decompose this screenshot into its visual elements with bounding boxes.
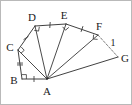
spoke-A-D — [35, 26, 47, 79]
edge-B-C — [18, 50, 22, 79]
edge-labels-group: 1 — [111, 37, 116, 48]
edge-label-FG: 1 — [111, 37, 116, 48]
edge-A-G — [47, 57, 118, 79]
spokes-group — [18, 24, 98, 79]
vertex-label-B: B — [10, 74, 17, 86]
edge-D-E — [35, 24, 66, 26]
right-angle-marks-group — [18, 24, 98, 79]
vertex-label-A: A — [43, 85, 51, 97]
vertex-label-G: G — [121, 52, 129, 64]
vertex-labels-group: ABCDEFG — [6, 9, 129, 97]
vertex-label-C: C — [6, 41, 13, 53]
vertex-label-D: D — [28, 11, 36, 23]
geometry-diagram: 1 ABCDEFG — [1, 1, 132, 105]
outer-edges-group — [18, 24, 118, 79]
vertex-label-E: E — [61, 9, 68, 21]
right-angle-at-B — [22, 75, 26, 79]
vertex-label-F: F — [96, 20, 102, 32]
geometry-figure-container: 1 ABCDEFG — [0, 0, 132, 105]
tick-marks-group — [17, 22, 82, 81]
